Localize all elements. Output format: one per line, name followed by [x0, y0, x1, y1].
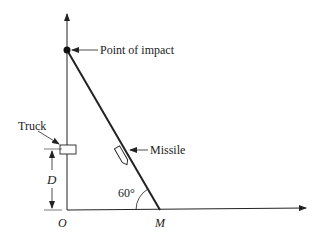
- truck-label: Truck: [18, 119, 46, 133]
- missile-label: Missile: [150, 143, 185, 157]
- origin-label: O: [58, 216, 67, 230]
- distance-label: D: [46, 172, 57, 187]
- missile-icon: [114, 146, 129, 166]
- missile-trajectory: [67, 50, 160, 210]
- truck-icon: [60, 145, 76, 154]
- impact-label: Point of impact: [100, 43, 175, 57]
- angle-arc: [136, 189, 148, 210]
- angle-label: 60°: [118, 186, 135, 200]
- impact-point: [64, 47, 71, 54]
- x-axis: [67, 208, 306, 210]
- launch-point-label: M: [154, 216, 166, 230]
- diagram: Point of impact Missile Truck D 60° O M: [0, 0, 320, 237]
